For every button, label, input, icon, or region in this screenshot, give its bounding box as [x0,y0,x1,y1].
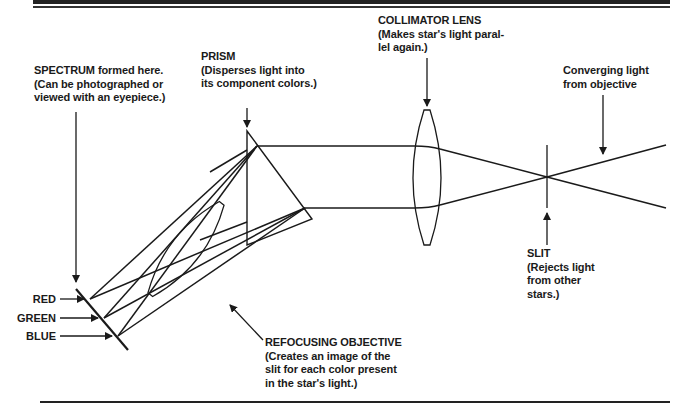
red-label: RED [0,293,56,305]
refocusing-objective-label: REFOCUSING OBJECTIVE (Creates an image o… [265,336,402,390]
green-label: GREEN [0,312,56,324]
prism-label: PRISM (Disperses light into its componen… [201,50,317,91]
blue-label: BLUE [0,330,56,342]
slit-label: SLIT (Rejects light from other stars.) [527,247,595,301]
collimator-lens [413,110,441,245]
spectrum-plate [76,289,128,350]
ray-in-bottom [547,177,666,208]
spectrum-label: SPECTRUM formed here. (Can be photograph… [34,64,165,105]
collimator-lens-label: COLLIMATOR LENS (Makes star's light para… [378,14,504,55]
converging-light-label: Converging light from objective [563,64,649,91]
ray-in-top [547,145,666,177]
